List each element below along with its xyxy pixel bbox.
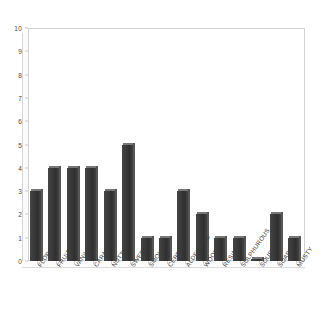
y-axis-tick-label: 3 bbox=[18, 188, 22, 195]
bar-chart: 012345678910 FLORALFRUITYVANILLACARAMELN… bbox=[0, 0, 321, 328]
y-axis-tick-label: 1 bbox=[18, 234, 22, 241]
bar-slot[interactable] bbox=[103, 28, 120, 261]
bar-slot[interactable] bbox=[213, 28, 230, 261]
bar-side-face bbox=[115, 189, 117, 261]
bar[interactable] bbox=[122, 145, 133, 262]
y-axis-tick-label: 4 bbox=[18, 164, 22, 171]
y-axis-tick-label: 9 bbox=[18, 48, 22, 55]
y-axis-tick-label: 6 bbox=[18, 118, 22, 125]
bar-side-face bbox=[59, 166, 61, 261]
bar-slot[interactable] bbox=[287, 28, 304, 261]
y-axis-tick-label: 2 bbox=[18, 211, 22, 218]
bar-side-face bbox=[188, 189, 190, 261]
bar-slot[interactable] bbox=[47, 28, 64, 261]
y-axis-tick-label: 0 bbox=[18, 258, 22, 265]
bar[interactable] bbox=[30, 191, 41, 261]
bar-slot[interactable] bbox=[195, 28, 212, 261]
bar-slot[interactable] bbox=[121, 28, 138, 261]
bars-area bbox=[28, 28, 305, 261]
y-axis-tick-label: 10 bbox=[14, 25, 22, 32]
bar-slot[interactable] bbox=[232, 28, 249, 261]
bar-slot[interactable] bbox=[269, 28, 286, 261]
bar-side-face bbox=[133, 143, 135, 262]
bar-slot[interactable] bbox=[84, 28, 101, 261]
bar-slot[interactable] bbox=[29, 28, 46, 261]
bar-slot[interactable] bbox=[176, 28, 193, 261]
bar-side-face bbox=[41, 189, 43, 261]
x-axis-labels: FLORALFRUITYVANILLACARAMELNUTTYSWEETSMOK… bbox=[28, 264, 305, 328]
bar-side-face bbox=[78, 166, 80, 261]
y-axis-tick-label: 7 bbox=[18, 94, 22, 101]
bar-slot[interactable] bbox=[66, 28, 83, 261]
y-axis: 012345678910 bbox=[0, 0, 28, 261]
bar-side-face bbox=[96, 166, 98, 261]
bar-slot[interactable] bbox=[140, 28, 157, 261]
y-axis-tick-label: 8 bbox=[18, 71, 22, 78]
y-axis-tick-label: 5 bbox=[18, 141, 22, 148]
bar-slot[interactable] bbox=[158, 28, 175, 261]
